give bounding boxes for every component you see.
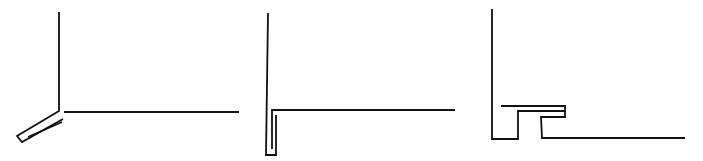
diagram-canvas	[0, 0, 703, 161]
panel-3	[492, 9, 685, 139]
panel-1-line-3	[28, 122, 62, 137]
panel-2-line-1	[266, 13, 276, 155]
panel-3-line-2	[541, 111, 685, 138]
panel-1-line-1	[17, 12, 63, 142]
flashing-profiles-diagram	[0, 0, 703, 161]
panel-1	[17, 12, 239, 142]
panel-2-line-2	[272, 110, 455, 149]
panel-3-line-1	[492, 9, 565, 139]
panel-2	[266, 13, 455, 155]
